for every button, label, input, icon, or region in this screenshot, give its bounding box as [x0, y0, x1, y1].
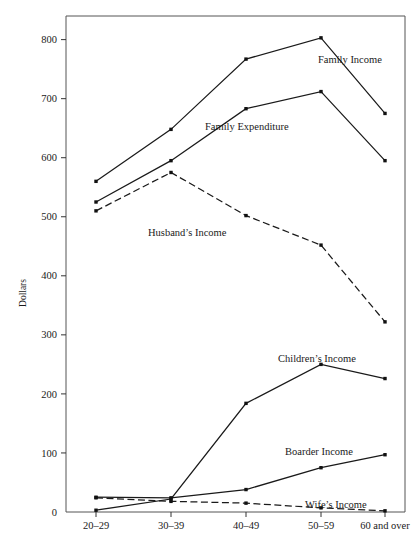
data-point-marker — [244, 214, 247, 217]
data-point-marker — [94, 209, 97, 212]
data-point-marker — [319, 36, 322, 39]
series-label: Children’s Income — [278, 353, 356, 364]
data-point-marker — [319, 90, 322, 93]
y-tick-label: 800 — [41, 34, 57, 45]
y-tick-label: 700 — [41, 93, 57, 104]
chart-container: 0100200300400500600700800 20–2930–3940–4… — [0, 0, 420, 548]
data-point-marker — [94, 509, 97, 512]
data-point-marker — [169, 159, 172, 162]
y-axis-tick-labels: 0100200300400500600700800 — [41, 34, 57, 517]
data-point-marker — [244, 402, 247, 405]
series-line — [96, 455, 385, 498]
x-axis-tick-labels: 20–2930–3940–4950–5960 and over — [83, 520, 410, 531]
data-point-marker — [169, 496, 172, 499]
x-tick-label: 30–39 — [158, 520, 184, 531]
data-point-marker — [383, 112, 386, 115]
y-axis-title-text: Dollars — [18, 279, 28, 307]
x-tick-label: 20–29 — [83, 520, 109, 531]
data-point-markers — [94, 36, 386, 512]
y-tick-label: 600 — [41, 152, 57, 163]
y-tick-label: 200 — [41, 389, 57, 400]
data-point-marker — [383, 509, 386, 512]
data-point-marker — [244, 57, 247, 60]
series-line — [96, 364, 385, 510]
data-point-marker — [94, 200, 97, 203]
series-line — [96, 92, 385, 202]
y-tick-label: 0 — [52, 507, 57, 518]
data-point-marker — [383, 453, 386, 456]
x-tick-label: 50–59 — [308, 520, 334, 531]
data-point-marker — [169, 500, 172, 503]
series-label: Family Income — [318, 54, 382, 65]
data-series-group — [96, 38, 385, 511]
series-annotations: Family IncomeFamily ExpenditureHusband’s… — [148, 54, 382, 510]
y-axis-title: Dollars — [18, 279, 28, 307]
y-tick-label: 400 — [41, 270, 57, 281]
x-tick-label: 40–49 — [233, 520, 259, 531]
plot-frame — [66, 16, 405, 512]
data-point-marker — [319, 466, 322, 469]
x-tick-label: 60 and over — [360, 520, 410, 531]
data-point-marker — [383, 377, 386, 380]
series-label: Family Expenditure — [205, 121, 289, 132]
y-tick-label: 100 — [41, 448, 57, 459]
y-tick-label: 300 — [41, 329, 57, 340]
series-label: Husband’s Income — [148, 227, 227, 238]
data-point-marker — [169, 128, 172, 131]
data-point-marker — [94, 180, 97, 183]
y-tick-label: 500 — [41, 211, 57, 222]
data-point-marker — [169, 171, 172, 174]
data-point-marker — [319, 243, 322, 246]
data-point-marker — [383, 320, 386, 323]
data-point-marker — [383, 159, 386, 162]
data-point-marker — [244, 501, 247, 504]
plot-border — [66, 16, 405, 512]
series-label: Wife’s Income — [305, 499, 367, 510]
data-point-marker — [94, 496, 97, 499]
data-point-marker — [244, 107, 247, 110]
data-point-marker — [244, 488, 247, 491]
series-line — [96, 172, 385, 321]
line-chart-svg: 0100200300400500600700800 20–2930–3940–4… — [0, 0, 420, 548]
series-label: Boarder Income — [285, 446, 353, 457]
